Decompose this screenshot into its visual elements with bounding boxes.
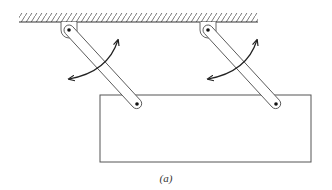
right-link-assembly <box>200 22 283 111</box>
fixed-ceiling <box>19 13 258 22</box>
four-bar-linkage-diagram <box>0 0 332 190</box>
left-top-pin <box>67 28 71 32</box>
left-link-assembly <box>61 22 144 111</box>
right-top-pin <box>206 28 210 32</box>
right-bottom-pin <box>274 102 278 106</box>
caption-label: (a) <box>160 172 173 184</box>
left-bottom-pin <box>135 102 139 106</box>
figure-caption: (a) <box>0 172 332 184</box>
